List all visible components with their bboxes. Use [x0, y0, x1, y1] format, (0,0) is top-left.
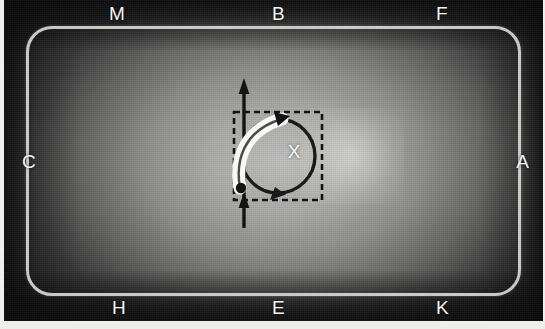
perimeter-label-b: B [272, 4, 285, 23]
perimeter-label-a: A [516, 151, 529, 170]
perimeter-label-k: K [436, 298, 449, 317]
center-annotation-svg [220, 76, 336, 236]
photo-canvas: M B F C A H E K [4, 0, 543, 321]
perimeter-label-c: C [22, 151, 36, 170]
perimeter-label-m: M [109, 4, 125, 23]
perimeter-label-f: F [436, 4, 448, 23]
perimeter-label-e: E [272, 298, 285, 317]
screenshot-root: M B F C A H E K [0, 0, 545, 329]
perimeter-label-h: H [112, 298, 126, 317]
center-annotation-group: X [220, 76, 336, 236]
